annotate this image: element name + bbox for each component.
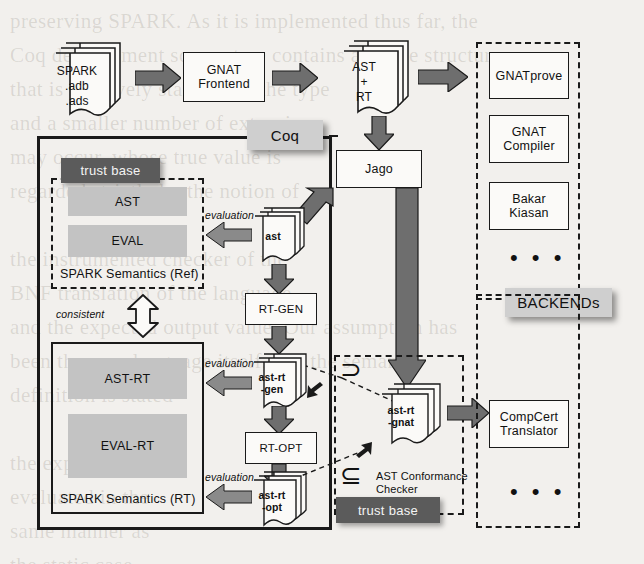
ast-rt-gnat-line-1: ast-rt: [365, 404, 437, 416]
ast-plus-rt-docs: AST + RT: [340, 38, 422, 118]
ast-rt-bar-label: AST-RT: [104, 372, 150, 386]
spark-docs-line-3: .ads: [36, 94, 118, 109]
ast-rt-opt-line-2: -opt: [239, 501, 305, 513]
gnatprove-label: GNATprove: [496, 69, 563, 83]
astrt-docs-line-1: AST: [323, 60, 405, 75]
ast-rt-gnat-doc: ast-rt -gnat: [378, 382, 450, 446]
arrow-astrt-to-jago: [364, 116, 394, 150]
ast-bar: AST: [68, 187, 187, 216]
eval-rt-bar: EVAL-RT: [68, 414, 187, 478]
gnat-frontend-line-2: Frontend: [198, 77, 250, 91]
jago-label: Jago: [365, 162, 393, 176]
evaluation-label-3: evaluation: [205, 471, 254, 483]
ast-bar-label: AST: [115, 195, 140, 209]
arrowhead-superset-to-gen: [307, 382, 323, 398]
compcert-translator-box[interactable]: CompCert Translator: [489, 400, 569, 448]
arrow-astrt-to-backends: [418, 62, 468, 92]
backends-bottom-ellipsis: • • •: [510, 487, 565, 497]
arrowhead-subset-to-gnat: [356, 442, 372, 458]
spark-semantics-ref-caption: SPARK Semantics (Ref): [60, 267, 199, 281]
ast-rt-opt-line-1: ast-rt: [239, 489, 305, 501]
arrow-ast-to-rtgen: [264, 264, 294, 294]
ast-doc-label: ast: [265, 230, 280, 242]
compcert-line-2: Translator: [500, 424, 559, 438]
ast-conformance-checker-caption: AST Conformance Checker: [376, 470, 468, 495]
trust-base-chip-ref: trust base: [61, 158, 160, 183]
checker-caption-line-1: AST Conformance: [376, 470, 468, 483]
gnat-frontend-box[interactable]: GNAT Frontend: [183, 52, 265, 102]
checker-caption-line-2: Checker: [376, 483, 468, 496]
trust-base-checker-label: trust base: [358, 503, 418, 518]
rt-gen-box[interactable]: RT-GEN: [245, 293, 317, 325]
ast-rt-gen-line-2: -gen: [239, 383, 305, 395]
trust-base-chip-checker: trust base: [336, 497, 440, 523]
rt-gen-label: RT-GEN: [259, 302, 303, 316]
eval-rt-bar-label: EVAL-RT: [101, 439, 155, 453]
eval-bar: EVAL: [68, 225, 187, 257]
bakar-kiasan-line-2: Kiasan: [509, 206, 548, 220]
eval-bar-label: EVAL: [111, 234, 143, 248]
evaluation-label-2: evaluation: [205, 357, 254, 369]
gnat-compiler-box[interactable]: GNAT Compiler: [489, 115, 569, 163]
bakar-kiasan-box[interactable]: Bakar Kiasan: [489, 182, 569, 230]
consistent-double-arrow: [126, 294, 160, 338]
spark-docs-line-1: SPARK: [36, 64, 118, 79]
gnat-frontend-line-1: GNAT: [198, 63, 250, 77]
compcert-line-1: CompCert: [500, 410, 559, 424]
backends-top-ellipsis: • • •: [510, 253, 565, 263]
coq-label-text: Coq: [271, 127, 299, 144]
ast-rt-gnat-line-2: -gnat: [365, 416, 437, 428]
ast-rt-gen-line-1: ast-rt: [239, 371, 305, 383]
arrow-frontend-to-astrt: [272, 63, 318, 93]
astrt-docs-line-2: +: [323, 75, 405, 90]
spark-semantics-rt-caption: SPARK Semantics (RT): [60, 492, 196, 506]
spark-source-docs: SPARK .adb .ads: [52, 40, 134, 118]
ast-doc: ast: [252, 206, 314, 262]
evaluation-label-1: evaluation: [205, 209, 254, 221]
bakar-kiasan-line-1: Bakar: [509, 192, 548, 206]
arrow-rtgen-to-astrtgen: [264, 326, 294, 354]
spark-docs-line-2: .adb: [36, 79, 118, 94]
ast-rt-bar: AST-RT: [68, 358, 187, 399]
consistent-label: consistent: [56, 308, 104, 320]
arrow-astrtgen-to-rtopt: [264, 406, 294, 434]
gnat-compiler-line-2: Compiler: [503, 139, 555, 153]
gnatprove-box[interactable]: GNATprove: [489, 52, 569, 99]
gnat-compiler-line-1: GNAT: [503, 125, 555, 139]
rt-opt-label: RT-OPT: [259, 441, 302, 455]
astrt-docs-line-3: RT: [323, 90, 405, 105]
jago-box[interactable]: Jago: [336, 150, 422, 188]
coq-group-label: Coq: [247, 120, 323, 150]
trust-base-ref-label: trust base: [80, 163, 140, 178]
arrow-source-to-frontend: [135, 63, 181, 93]
